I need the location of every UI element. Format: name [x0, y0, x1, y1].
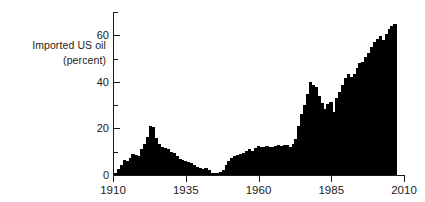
x-axis-tick: [186, 176, 187, 182]
y-axis-tick-label: 40: [97, 76, 109, 88]
bar: [393, 24, 397, 175]
x-axis-tick-label: 1985: [318, 184, 344, 196]
y-axis-tick: [114, 175, 120, 176]
x-axis-tick-label: 1960: [246, 184, 272, 196]
y-axis-tick-label: 0: [103, 169, 109, 181]
plot-area: 0204060 19101935196019852010: [113, 12, 405, 175]
x-axis-tick-label: 2010: [391, 184, 417, 196]
imported-us-oil-chart: Imported US oil (percent) 0204060 191019…: [0, 0, 425, 202]
x-axis-tick: [404, 176, 405, 182]
y-axis-tick-label: 20: [97, 122, 109, 134]
y-axis-label: Imported US oil (percent): [6, 38, 106, 68]
y-axis-label-line-1: Imported US oil: [6, 38, 106, 53]
x-axis-tick-label: 1935: [173, 184, 199, 196]
x-axis-tick-label: 1910: [100, 184, 126, 196]
y-axis-tick-label: 60: [97, 29, 109, 41]
x-axis-tick: [113, 176, 114, 182]
bars-layer: [114, 12, 405, 175]
x-axis-tick: [331, 176, 332, 182]
x-axis-tick: [259, 176, 260, 182]
y-axis-label-line-2: (percent): [6, 53, 106, 68]
